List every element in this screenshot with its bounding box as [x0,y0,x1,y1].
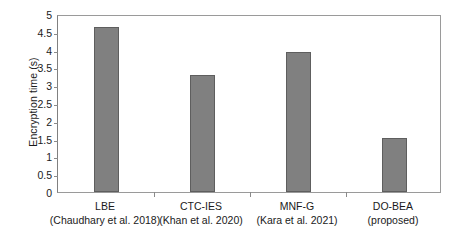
y-axis-tick-label: 0.5 [12,170,52,180]
y-axis-tick-label: 4 [12,46,52,56]
y-axis-tick-mark [54,141,58,142]
y-axis-tick-mark [54,176,58,177]
x-axis-category-citation: (proposed) [333,214,453,228]
y-axis-tick-label: 4.5 [12,28,52,38]
y-axis-tick-label: 2.5 [12,99,52,109]
y-axis-tick-label: 1 [12,152,52,162]
y-axis-tick-label: 2 [12,117,52,127]
x-axis-category-label: DO-BEA(proposed) [333,200,453,227]
x-axis-tick-mark [346,192,347,197]
y-axis-tick-label: 3 [12,81,52,91]
y-axis-tick-label: 3.5 [12,63,52,73]
x-axis-tick-mark [250,192,251,197]
x-axis-category-name: DO-BEA [333,200,453,214]
y-axis-tick-label: 5 [12,10,52,20]
bar [190,75,215,192]
bar [382,138,407,192]
y-axis-tick-mark [54,105,58,106]
y-axis-tick-mark [54,158,58,159]
y-axis-tick-label: 1.5 [12,135,52,145]
y-axis-tick-mark [54,69,58,70]
y-axis-tick-label: 0 [12,188,52,198]
y-axis-tick-mark [54,87,58,88]
y-axis-tick-mark [54,34,58,35]
x-axis-tick-mark [154,192,155,197]
y-axis-tick-mark [54,52,58,53]
y-axis-tick-mark [54,123,58,124]
bar [286,52,311,192]
bar-chart: Encryption time (s) 00.511.522.533.544.5… [0,0,454,242]
bar [94,27,119,192]
plot-area [57,15,441,193]
